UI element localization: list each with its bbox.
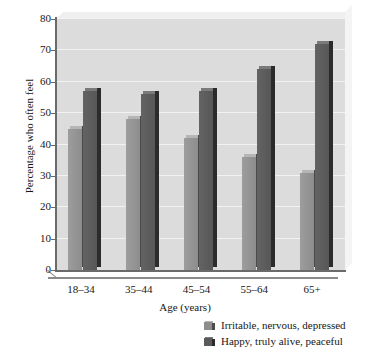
x-axis-tick-label: 65+ (277, 283, 347, 295)
y-axis-tick-mark (51, 113, 56, 114)
bar (83, 91, 97, 270)
legend-item[interactable]: Irritable, nervous, depressed (204, 317, 346, 333)
bar (126, 119, 140, 270)
y-axis-tick-label: 80 (11, 13, 51, 24)
bar-side-face (271, 66, 275, 267)
y-axis-tick-mark (51, 207, 56, 208)
bar-front-face (242, 157, 256, 270)
bar (300, 173, 314, 270)
bar-front-face (300, 173, 314, 270)
bar (141, 94, 155, 270)
y-axis-tick-mark (51, 82, 56, 83)
bar (199, 91, 213, 270)
y-axis-tick-mark (51, 176, 56, 177)
bar-front-face (141, 94, 155, 270)
bar-front-face (68, 129, 82, 270)
x-axis-front-edge (48, 277, 338, 279)
legend-label: Irritable, nervous, depressed (221, 319, 346, 331)
bar-front-face (257, 69, 271, 270)
bar (184, 138, 198, 270)
bar-front-face (126, 119, 140, 270)
bar (242, 157, 256, 270)
x-axis-title: Age (years) (0, 301, 370, 313)
x-axis-line (56, 270, 346, 272)
bar-chart: 01020304050607080 18–3435–4445–5455–6465… (0, 0, 370, 360)
bar (257, 69, 271, 270)
y-axis-tick-mark (51, 239, 56, 240)
plot-area (56, 19, 345, 270)
legend-swatch-icon (204, 321, 215, 330)
y-axis-tick-mark (51, 145, 56, 146)
y-axis-tick-mark (51, 19, 56, 20)
gridline (56, 49, 345, 50)
y-axis-tick-label: 0 (11, 264, 51, 275)
bar-side-face (213, 88, 217, 267)
bar-front-face (199, 91, 213, 270)
bar-side-face (97, 88, 101, 267)
plot-panel-right-face (345, 5, 352, 270)
bar (315, 44, 329, 270)
bar-side-face (329, 41, 333, 267)
bar-side-face (155, 91, 159, 267)
bar-front-face (315, 44, 329, 270)
legend-swatch-icon (204, 337, 215, 346)
y-axis-title: Percentage who often feel (23, 41, 35, 231)
y-axis-tick-mark (51, 50, 56, 51)
bar-front-face (184, 138, 198, 270)
legend-item[interactable]: Happy, truly alive, peaceful (204, 333, 346, 349)
gridline (56, 81, 345, 82)
chart-legend: Irritable, nervous, depressedHappy, trul… (204, 317, 346, 349)
y-axis-tick-label: 10 (11, 233, 51, 244)
legend-label: Happy, truly alive, peaceful (221, 335, 343, 347)
bar (68, 129, 82, 270)
y-axis-tick-mark (51, 270, 56, 271)
bar-front-face (83, 91, 97, 270)
gridline (56, 18, 345, 19)
